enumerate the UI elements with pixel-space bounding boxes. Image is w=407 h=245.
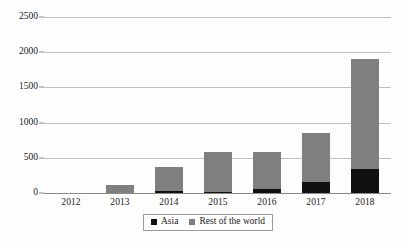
x-axis-tick-label: 2018 xyxy=(342,198,388,208)
x-axis-tick-label: 2012 xyxy=(48,198,94,208)
bar-group-2016[interactable] xyxy=(244,17,290,193)
legend-item-rest-of-world[interactable]: Rest of the world xyxy=(189,217,265,227)
x-axis-tick-label: 2017 xyxy=(293,198,339,208)
stacked-bar-chart: 0 500 1000 1500 2000 2500 xyxy=(0,0,407,245)
rest-of-world-swatch-icon xyxy=(189,219,195,225)
legend-item-asia[interactable]: Asia xyxy=(151,217,178,227)
x-axis-tick-label: 2015 xyxy=(195,198,241,208)
bar-group-2014[interactable] xyxy=(146,17,192,193)
y-axis-tick-label: 2500 xyxy=(0,12,38,22)
plot-area xyxy=(44,17,391,193)
bar-group-2013[interactable] xyxy=(97,17,143,193)
legend-label: Rest of the world xyxy=(199,217,265,227)
bar-segment-asia[interactable] xyxy=(155,191,183,193)
chart-legend: Asia Rest of the world xyxy=(143,214,273,231)
y-axis-tick-label: 0 xyxy=(0,188,38,198)
bar-stack[interactable] xyxy=(106,185,134,193)
bar-segment-rest-of-world[interactable] xyxy=(204,152,232,192)
y-axis-tick-label: 1000 xyxy=(0,118,38,128)
x-axis-tick-label: 2013 xyxy=(97,198,143,208)
x-axis-tick-label: 2014 xyxy=(146,198,192,208)
bar-segment-asia[interactable] xyxy=(253,189,281,193)
y-axis-tick-label: 2000 xyxy=(0,47,38,57)
asia-swatch-icon xyxy=(151,219,157,225)
bar-stack[interactable] xyxy=(155,167,183,193)
bar-group-2012[interactable] xyxy=(48,17,94,193)
x-axis: 2012 2013 2014 2015 2016 2017 2018 xyxy=(44,196,391,212)
bar-segment-asia[interactable] xyxy=(204,192,232,193)
bar-segment-rest-of-world[interactable] xyxy=(253,152,281,189)
x-axis-tick-label: 2016 xyxy=(244,198,290,208)
bar-segment-rest-of-world[interactable] xyxy=(106,185,134,193)
bar-group-2018[interactable] xyxy=(342,17,388,193)
bar-segment-asia[interactable] xyxy=(351,169,379,193)
bar-segment-asia[interactable] xyxy=(302,182,330,193)
bar-group-2017[interactable] xyxy=(293,17,339,193)
bar-stack[interactable] xyxy=(302,133,330,193)
bar-segment-rest-of-world[interactable] xyxy=(351,59,379,170)
bar-stack[interactable] xyxy=(204,152,232,193)
bar-group-2015[interactable] xyxy=(195,17,241,193)
bar-stack[interactable] xyxy=(351,59,379,193)
y-axis-tick-label: 1500 xyxy=(0,83,38,93)
bar-segment-rest-of-world[interactable] xyxy=(302,133,330,182)
bar-segment-rest-of-world[interactable] xyxy=(155,167,183,191)
bar-series-group xyxy=(44,17,391,193)
legend-label: Asia xyxy=(161,217,178,227)
y-axis: 0 500 1000 1500 2000 2500 xyxy=(0,17,38,193)
axis-baseline xyxy=(44,193,391,194)
bar-stack[interactable] xyxy=(253,152,281,193)
y-axis-tick-label: 500 xyxy=(0,153,38,163)
